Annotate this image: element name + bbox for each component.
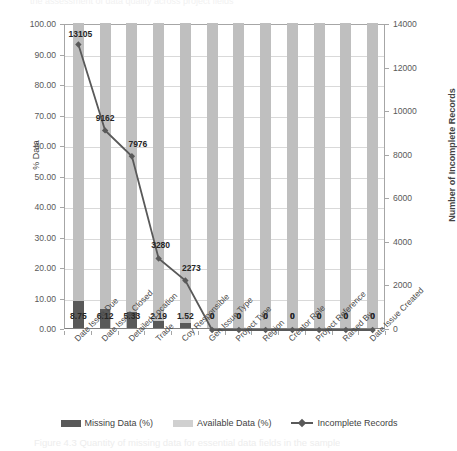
y-axis-title-left: % Data [31,115,41,195]
line-data-label: 3280 [144,241,178,250]
legend-item[interactable]: Incomplete Records [291,418,397,428]
y-axis-title-right: Number of Incomplete Records [447,85,457,225]
y-axis-left-tick-label: 90.00 [10,51,56,60]
line-data-label: 13105 [63,30,97,39]
y-axis-left-tick-label: 40.00 [10,203,56,212]
legend-swatch-icon [173,420,193,427]
plot-area: 1310591627976328022730000000 8.756.125.3… [64,24,385,329]
y-axis-left-tick-label: 80.00 [10,81,56,90]
legend-swatch-icon [61,420,81,427]
incomplete-records-line [78,45,372,331]
legend-label: Available Data (%) [197,418,271,428]
line-data-label: 9162 [88,114,122,123]
y-axis-right-tick-label: 10000 [393,107,439,116]
y-axis-left-tick-label: 10.00 [10,295,56,304]
chart-legend: Missing Data (%)Available Data (%)Incomp… [64,415,394,431]
y-axis-left-tick-label: 0.00 [10,325,56,334]
y-axis-left-tick-label: 20.00 [10,264,56,273]
legend-swatch-line-icon [291,419,313,427]
y-axis-right-tick-label: 4000 [393,238,439,247]
y-axis-left-tick-label: 50.00 [10,173,56,182]
y-axis-right-tick-label: 12000 [393,64,439,73]
y-axis-left-tick-mark [60,329,64,330]
line-data-label: 2273 [174,264,208,273]
y-axis-right-tick-label: 6000 [393,194,439,203]
legend-label: Incomplete Records [317,418,397,428]
y-axis-left-tick-label: 100.00 [10,20,56,29]
y-axis-right-tick-label: 14000 [393,20,439,29]
line-marker [75,41,81,47]
line-data-label: 7976 [121,140,155,149]
y-axis-left-tick-label: 60.00 [10,142,56,151]
legend-item[interactable]: Available Data (%) [173,418,271,428]
legend-item[interactable]: Missing Data (%) [61,418,154,428]
x-axis-category-labels: Date Issue DueDate Issue ClosedDetailed … [64,331,385,401]
x-axis-tick-mark [64,331,65,335]
y-axis-right-tick-label: 8000 [393,151,439,160]
y-axis-left-tick-label: 70.00 [10,112,56,121]
y-axis-left-tick-label: 30.00 [10,234,56,243]
line-series-layer [65,25,386,330]
legend-label: Missing Data (%) [85,418,154,428]
y-axis-right-tick-label: 0 [393,325,439,334]
